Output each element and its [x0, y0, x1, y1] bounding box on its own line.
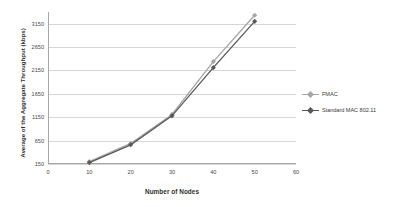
x-tick-label: 50 — [252, 169, 258, 175]
y-tick-label: 3150 — [32, 21, 44, 27]
gridline — [48, 164, 296, 165]
legend-label: Standard MAC 802.11 — [322, 107, 376, 113]
series-lines — [48, 12, 296, 164]
legend-item-2[interactable]: Standard MAC 802.11 — [302, 102, 396, 118]
y-tick-label: 1650 — [32, 91, 44, 97]
y-tick-label: 1150 — [32, 114, 44, 120]
x-tick-label: 60 — [293, 169, 299, 175]
x-tick-label: 0 — [46, 169, 49, 175]
legend-marker-icon — [302, 106, 319, 115]
x-tick-label: 30 — [169, 169, 175, 175]
throughput-line-chart: Average of the Aggregate Throughput (kbp… — [0, 0, 396, 207]
y-tick-label: 2150 — [32, 67, 44, 73]
x-axis-title: Number of Nodes — [48, 188, 296, 195]
x-tick-label: 20 — [128, 169, 134, 175]
x-tick-label: 40 — [210, 169, 216, 175]
plot-area: 15065011501650215026503150 0102030405060 — [48, 12, 296, 164]
chart-legend: FMACStandard MAC 802.11 — [302, 86, 396, 118]
legend-label: FMAC — [322, 91, 338, 97]
x-tick-label: 10 — [86, 169, 92, 175]
y-axis-title: Average of the Aggregate Throughput (kbp… — [14, 8, 32, 178]
legend-item-1[interactable]: FMAC — [302, 86, 396, 102]
y-tick-label: 2650 — [32, 44, 44, 50]
series-line-1 — [89, 15, 254, 161]
y-tick-label: 650 — [35, 138, 44, 144]
y-tick-label: 150 — [35, 161, 44, 167]
legend-marker-icon — [302, 90, 319, 99]
